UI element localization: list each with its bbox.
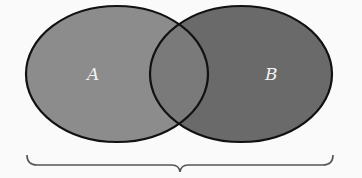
union-brace xyxy=(27,155,333,172)
venn-diagram: A B xyxy=(0,0,362,178)
venn-svg: A B xyxy=(0,0,362,178)
set-a-label: A xyxy=(85,64,99,84)
set-b-label: B xyxy=(264,64,278,84)
